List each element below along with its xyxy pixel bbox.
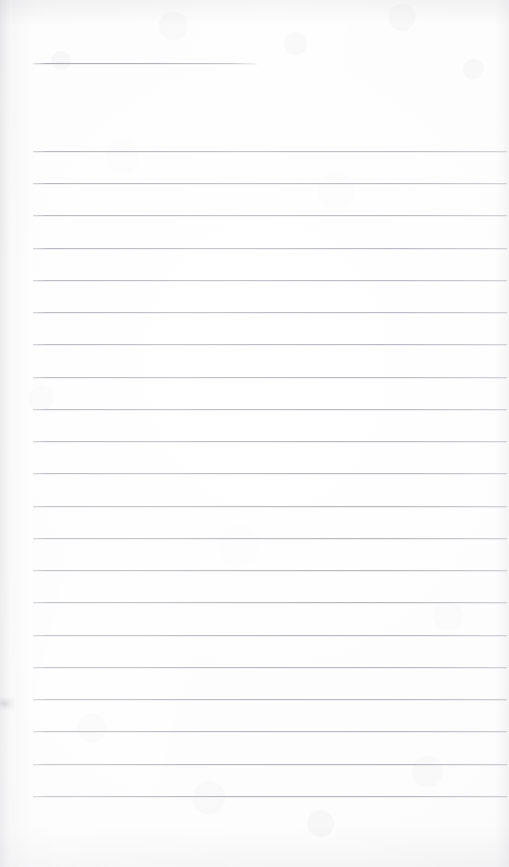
ruled-line	[33, 667, 507, 668]
scanned-page	[0, 0, 509, 867]
ruled-line	[33, 377, 507, 378]
ruled-line	[33, 731, 507, 732]
ruled-line	[33, 183, 507, 184]
header-rule	[33, 63, 257, 64]
ruled-line	[33, 215, 507, 216]
ruled-line	[33, 635, 507, 636]
ruled-line	[33, 764, 507, 765]
ruled-line	[33, 344, 507, 345]
ruled-line	[33, 602, 507, 603]
ruled-line	[33, 570, 507, 571]
ruled-line	[33, 506, 507, 507]
ruled-line	[33, 312, 507, 313]
ruled-line	[33, 796, 507, 797]
ruled-line	[33, 409, 507, 410]
ruled-line	[33, 151, 507, 152]
ruled-line	[33, 248, 507, 249]
ruled-line	[33, 473, 507, 474]
ruled-line	[33, 538, 507, 539]
ruled-line	[33, 699, 507, 700]
paper-surface	[0, 0, 509, 867]
ruled-line	[33, 280, 507, 281]
ruled-line	[33, 441, 507, 442]
